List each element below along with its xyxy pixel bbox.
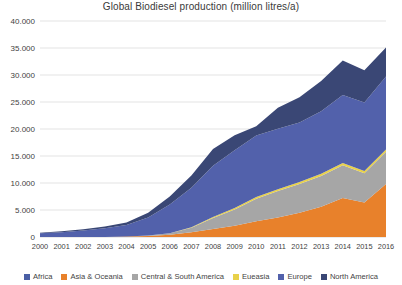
y-axis-tick-label: 40.000 <box>11 17 36 26</box>
legend-swatch-icon <box>321 274 327 280</box>
x-axis-tick-label: 2006 <box>162 242 178 251</box>
legend-swatch-icon <box>278 274 284 280</box>
y-axis-tick-label: 20.000 <box>11 125 36 134</box>
y-axis-tick-label: 0 <box>31 233 36 242</box>
x-axis-tick-label: 2002 <box>75 242 91 251</box>
legend-label: Europe <box>287 272 312 281</box>
legend-item[interactable]: Eueasia <box>233 272 269 281</box>
y-axis-tick-label: 10.000 <box>11 179 36 188</box>
legend-swatch-icon <box>61 274 67 280</box>
area-series-group <box>40 47 386 237</box>
y-axis-tick-label: 30.000 <box>11 71 36 80</box>
x-axis-tick-label: 2011 <box>270 242 286 251</box>
legend-item[interactable]: North America <box>321 272 378 281</box>
x-axis-tick-label: 2001 <box>53 242 69 251</box>
x-axis-tick-label: 2010 <box>248 242 264 251</box>
x-axis-tick-label: 2015 <box>356 242 372 251</box>
legend-label: Central & South America <box>141 272 224 281</box>
legend-swatch-icon <box>24 274 30 280</box>
x-axis-tick-label: 2004 <box>118 242 134 251</box>
legend-item[interactable]: Europe <box>278 272 312 281</box>
legend-label: Eueasia <box>242 272 269 281</box>
y-axis-tick-label: 25.000 <box>11 98 36 107</box>
legend-swatch-icon <box>132 274 138 280</box>
chart-container: Global Biodiesel production (million lit… <box>0 0 402 285</box>
legend-label: Asia & Oceania <box>70 272 122 281</box>
legend-label: North America <box>330 272 378 281</box>
x-axis-tick-label: 2003 <box>97 242 113 251</box>
x-axis-tick-label: 2016 <box>378 242 394 251</box>
x-axis-tick-label: 2013 <box>313 242 329 251</box>
y-axis-tick-label: 35.000 <box>11 44 36 53</box>
legend-item[interactable]: Africa <box>24 272 52 281</box>
legend-swatch-icon <box>233 274 239 280</box>
legend-item[interactable]: Central & South America <box>132 272 224 281</box>
legend-label: Africa <box>33 272 52 281</box>
x-axis-tick-label: 2008 <box>205 242 221 251</box>
legend-item[interactable]: Asia & Oceania <box>61 272 122 281</box>
y-axis-tick-label: 5.000 <box>15 206 36 215</box>
chart-legend: AfricaAsia & OceaniaCentral & South Amer… <box>0 272 402 281</box>
y-axis-tick-labels: 05.00010.00015.00020.00025.00030.00035.0… <box>11 17 36 242</box>
x-axis-tick-label: 2005 <box>140 242 156 251</box>
x-axis-tick-label: 2000 <box>32 242 48 251</box>
y-axis-tick-label: 15.000 <box>11 152 36 161</box>
x-axis-tick-label: 2009 <box>226 242 242 251</box>
x-axis-tick-label: 2014 <box>335 242 351 251</box>
x-axis-tick-label: 2012 <box>291 242 307 251</box>
x-axis-tick-label: 2007 <box>183 242 199 251</box>
stacked-area-plot: 05.00010.00015.00020.00025.00030.00035.0… <box>0 0 402 258</box>
x-axis-tick-labels: 2000200120022003200420052006200720082009… <box>32 242 394 251</box>
